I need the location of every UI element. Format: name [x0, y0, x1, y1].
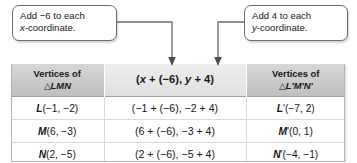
preimage-vertex-cell: L(−1, −2)	[11, 97, 104, 120]
add-y-callout-line2: y-coordinate.	[252, 22, 341, 34]
table-row: L(−1, −2) (−1 + (−6), −2 + 4) L′(−7, 2)	[11, 97, 345, 120]
arrow-to-y-column	[214, 22, 244, 66]
add-x-callout-line2-rest: -coordinate.	[25, 22, 76, 33]
computation-cell: (6 + (−6), −3 + 4)	[104, 120, 246, 143]
column-header-image-line2: △L′M′N′	[247, 80, 346, 92]
add-x-callout-line1: Add −6 to each	[20, 10, 110, 22]
image-triangle-label: L′M′N′	[286, 80, 313, 91]
table-row: N(2, −5) (2 + (−6), −5 + 4) N′(−4, −1)	[11, 143, 345, 163]
table-header-row: Vertices of △LMN (x + (−6), y + 4) Verti…	[11, 64, 345, 97]
triangle-icon: △	[44, 80, 51, 91]
triangle-prime-icon: △	[279, 80, 286, 91]
preimage-vertex-cell: M(6, −3)	[11, 120, 104, 143]
add-y-callout-line2-rest: -coordinate.	[257, 22, 308, 33]
add-y-callout: Add 4 to each y-coordinate.	[244, 5, 348, 41]
column-header-rule: (x + (−6), y + 4)	[104, 64, 246, 97]
computation-cell: (2 + (−6), −5 + 4)	[104, 143, 246, 163]
column-header-preimage-line1: Vertices of	[11, 68, 104, 80]
transformation-table: Vertices of △LMN (x + (−6), y + 4) Verti…	[11, 64, 345, 162]
arrow-to-x-column	[117, 22, 176, 66]
column-header-preimage: Vertices of △LMN	[11, 64, 104, 97]
column-header-image-line1: Vertices of	[247, 68, 346, 80]
preimage-vertex-cell: N(2, −5)	[11, 143, 104, 163]
add-x-callout-line2: x-coordinate.	[20, 22, 110, 34]
image-vertex-cell: L′(−7, 2)	[246, 97, 345, 120]
translation-rule: (x + (−6), y + 4)	[105, 74, 246, 86]
image-vertex-cell: M′(0, 1)	[246, 120, 345, 143]
add-y-callout-line1: Add 4 to each	[252, 10, 341, 22]
column-header-preimage-line2: △LMN	[11, 80, 104, 92]
computation-cell: (−1 + (−6), −2 + 4)	[104, 97, 246, 120]
preimage-triangle-label: LMN	[51, 80, 71, 91]
table-row: M(6, −3) (6 + (−6), −3 + 4) M′(0, 1)	[11, 120, 345, 143]
image-vertex-cell: N′(−4, −1)	[246, 143, 345, 163]
column-header-image: Vertices of △L′M′N′	[246, 64, 345, 97]
add-x-callout: Add −6 to each x-coordinate.	[12, 5, 117, 41]
